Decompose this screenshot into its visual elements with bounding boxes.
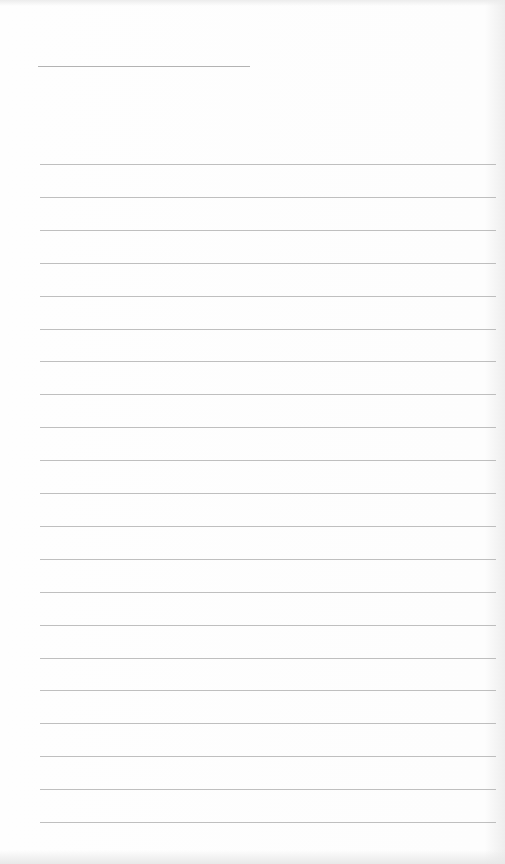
ruled-line (40, 690, 496, 691)
ruled-line (40, 822, 496, 823)
ruled-line (40, 756, 496, 757)
ruled-line (40, 723, 496, 724)
ruled-line (40, 592, 496, 593)
header-line (38, 66, 250, 67)
ruled-line (40, 526, 496, 527)
ruled-line (40, 197, 496, 198)
ruled-line (40, 296, 496, 297)
ruled-line (40, 263, 496, 264)
ruled-line (40, 789, 496, 790)
ruled-line (40, 625, 496, 626)
ruled-line (40, 493, 496, 494)
ruled-line (40, 394, 496, 395)
ruled-line (40, 230, 496, 231)
ruled-line (40, 427, 496, 428)
top-shadow (0, 0, 505, 6)
ruled-line (40, 460, 496, 461)
bottom-shadow (0, 850, 505, 864)
ruled-line (40, 559, 496, 560)
paper-sheet (0, 0, 505, 864)
ruled-line (40, 361, 496, 362)
ruled-line (40, 658, 496, 659)
ruled-line (40, 164, 496, 165)
ruled-line (40, 329, 496, 330)
